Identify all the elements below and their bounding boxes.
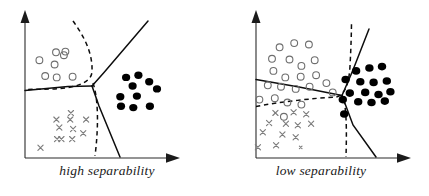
marker-filled-dot	[153, 85, 161, 92]
marker-filled-dot	[145, 78, 153, 85]
marker-open-circle	[42, 73, 49, 80]
marker-open-circle	[298, 63, 305, 70]
panel-high-separability: high separability	[0, 0, 214, 196]
marker-open-circle	[291, 40, 298, 47]
marker-filled-dot	[129, 104, 137, 111]
marker-cross	[299, 146, 302, 149]
marker-open-circle	[270, 68, 277, 75]
marker-filled-dot	[378, 63, 386, 71]
marker-filled-dot	[340, 110, 348, 118]
marker-open-circle	[282, 74, 289, 81]
marker-cross	[273, 110, 278, 115]
marker-filled-dot	[352, 67, 360, 75]
panel-low-separability: low separability	[214, 0, 428, 196]
marker-open-circle	[284, 99, 291, 106]
marker-cross	[38, 145, 43, 150]
marker-cross	[57, 125, 62, 130]
marker-open-circle	[329, 89, 336, 96]
marker-filled-dot	[346, 89, 354, 97]
axes-low	[252, 10, 412, 163]
marker-open-circle	[264, 82, 271, 89]
marker-cross	[280, 132, 285, 137]
marker-open-circle	[306, 41, 313, 48]
marker-filled-dot	[122, 74, 130, 81]
marker-cross	[304, 112, 309, 117]
separability-figure: high separability	[0, 0, 429, 196]
marker-filled-dot	[381, 97, 389, 105]
boundary-solid-lower-right	[92, 86, 120, 157]
marker-cross	[267, 120, 272, 125]
marker-cross	[274, 143, 279, 148]
marker-open-circle	[297, 73, 304, 80]
y-axis-arrowhead	[21, 10, 30, 23]
marker-cross	[309, 121, 314, 126]
marker-cross	[68, 117, 73, 122]
marker-open-circle	[286, 56, 293, 63]
marker-open-circle	[36, 57, 43, 64]
marker-filled-dot	[117, 103, 125, 110]
marker-filled-dot	[116, 93, 124, 100]
marker-filled-dot	[146, 103, 154, 110]
marker-filled-dot	[339, 96, 347, 104]
marker-filled-dot	[383, 77, 391, 85]
marker-filled-dot	[374, 91, 382, 99]
marker-filled-dot	[356, 78, 364, 86]
series-open-circle-high	[36, 48, 76, 81]
marker-filled-dot	[354, 98, 362, 106]
marker-filled-dot	[133, 92, 141, 99]
decision-boundaries-low	[256, 21, 376, 157]
marker-open-circle	[271, 95, 278, 102]
series-cross-low	[255, 110, 313, 150]
marker-filled-dot	[386, 88, 394, 96]
marker-filled-dot	[367, 99, 375, 107]
marker-open-circle	[313, 72, 320, 79]
marker-cross	[68, 111, 73, 116]
marker-cross	[260, 130, 265, 135]
x-axis-arrowhead	[397, 153, 411, 163]
scatter-plot-high-separability	[0, 0, 214, 168]
x-axis-arrowhead	[166, 153, 180, 163]
marker-open-circle	[311, 57, 318, 64]
panel-caption-low-separability: low separability	[276, 164, 367, 178]
y-axis-arrowhead	[252, 10, 261, 23]
decision-boundaries-high	[25, 21, 148, 157]
marker-cross	[71, 126, 76, 131]
marker-open-circle	[256, 96, 263, 103]
marker-open-circle	[276, 44, 283, 51]
marker-filled-dot	[129, 82, 137, 89]
series-filled-dot-high	[116, 72, 161, 112]
panel-caption-high-separability: high separability	[59, 164, 154, 178]
marker-open-circle	[53, 74, 60, 81]
marker-cross	[295, 123, 300, 128]
series-cross-high	[38, 111, 89, 151]
marker-open-circle	[69, 73, 76, 80]
boundary-solid-left	[25, 86, 92, 91]
marker-cross	[70, 137, 75, 142]
scatter-plot-low-separability	[214, 0, 428, 168]
marker-cross	[84, 117, 89, 122]
boundary-dashed-lower	[344, 100, 346, 157]
marker-cross	[283, 121, 288, 126]
marker-cross	[293, 135, 298, 140]
marker-filled-dot	[361, 89, 369, 97]
marker-cross	[59, 137, 64, 142]
marker-filled-dot	[341, 76, 349, 84]
boundary-dashed-lower	[93, 83, 97, 156]
marker-open-circle	[281, 113, 288, 120]
marker-open-circle	[298, 101, 305, 108]
marker-filled-dot	[134, 72, 142, 79]
marker-cross	[81, 131, 86, 136]
marker-filled-dot	[369, 79, 377, 87]
marker-filled-dot	[365, 64, 373, 72]
marker-cross	[54, 117, 59, 122]
marker-open-circle	[53, 49, 60, 56]
marker-cross	[291, 110, 296, 115]
marker-open-circle	[323, 80, 330, 87]
series-open-circle-low	[256, 40, 336, 121]
marker-open-circle	[51, 61, 58, 68]
boundary-solid-upper-right	[342, 29, 369, 96]
marker-open-circle	[269, 55, 276, 62]
